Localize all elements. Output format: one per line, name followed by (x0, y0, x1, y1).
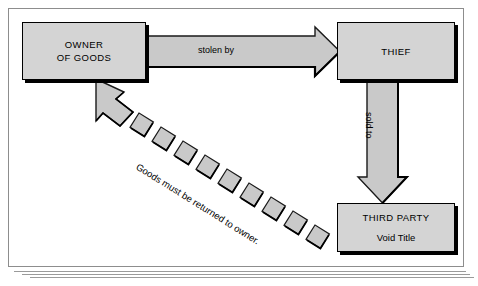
node-thief-title: THIEF (381, 45, 410, 58)
node-third-party-subtitle: Void Title (377, 231, 416, 244)
diagram-canvas: stolen by sold to Goods must be returned… (0, 0, 478, 286)
node-owner-of-goods[interactable]: OWNER OF GOODS (22, 22, 146, 80)
edge-label-stolen-by: stolen by (198, 45, 234, 55)
arrow-stolen-by (146, 27, 340, 76)
node-owner-title: OWNER OF GOODS (57, 38, 111, 64)
node-third-party-title: THIRD PARTY (363, 211, 430, 224)
arrow-sold-to (358, 80, 407, 203)
edge-label-sold-to: sold to (364, 112, 374, 139)
node-third-party[interactable]: THIRD PARTY Void Title (337, 203, 455, 252)
node-thief[interactable]: THIEF (337, 22, 455, 80)
arrow-goods-returned (96, 79, 329, 248)
